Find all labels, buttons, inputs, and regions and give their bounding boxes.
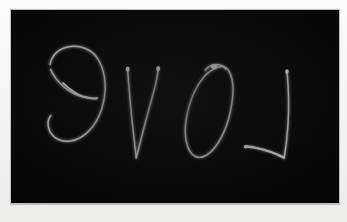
screenshot-root: LOVE xyxy=(0,0,347,222)
ink-strokes xyxy=(48,46,289,158)
ink-glow xyxy=(48,46,289,158)
handwriting-layer xyxy=(11,10,339,203)
pen-blob-l-top xyxy=(285,69,288,74)
handwriting-svg xyxy=(11,10,339,203)
chalkboard-panel xyxy=(11,10,339,203)
pen-blob-v-right xyxy=(156,66,160,71)
pen-blob-o-top xyxy=(211,64,218,69)
glyph-l-mirrored xyxy=(246,72,289,158)
glyph-o xyxy=(185,65,232,158)
pen-blob-v-left xyxy=(126,66,130,71)
